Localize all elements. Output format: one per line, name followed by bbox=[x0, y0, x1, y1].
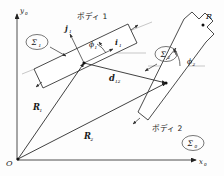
sigma2-subscript: 2 bbox=[167, 55, 171, 60]
unit-vector-j1-subscript: 1 bbox=[69, 29, 72, 34]
sigma1-circle bbox=[26, 35, 48, 50]
sigma0-subscript: 0 bbox=[195, 144, 198, 149]
vector-R2-subscript: 2 bbox=[90, 137, 94, 142]
body1-label: ボディ 1 bbox=[77, 11, 107, 21]
point-R-marker bbox=[202, 24, 205, 27]
axis-label-y: y 0 bbox=[19, 7, 28, 16]
frame-label-sigma1: Σ 1 bbox=[26, 35, 48, 50]
vector-R1-subscript: 1 bbox=[40, 108, 43, 113]
angle-phi1-subscript: 1 bbox=[95, 45, 98, 50]
label-d12: d 12 bbox=[109, 73, 121, 84]
unit-vector-i1-glyph: i bbox=[115, 38, 118, 47]
label-R2: R 2 bbox=[83, 131, 94, 142]
sigma2-leader bbox=[145, 64, 157, 71]
body2-corner-leader bbox=[133, 118, 140, 124]
sigma1-leader bbox=[50, 47, 66, 56]
x-axis-label: x bbox=[199, 158, 203, 166]
x-axis-subscript: 0 bbox=[204, 162, 207, 167]
axis-label-x: x 0 bbox=[199, 158, 207, 167]
origin-sigma2-marker bbox=[164, 81, 167, 84]
y-axis-subscript: 0 bbox=[25, 11, 28, 16]
sigma0-circle bbox=[182, 136, 204, 151]
point-R-label: R bbox=[205, 12, 212, 21]
sigma1-glyph: Σ bbox=[31, 38, 38, 47]
angle-phi2-subscript: 2 bbox=[192, 62, 196, 67]
unit-vector-j1-glyph: j bbox=[63, 24, 68, 33]
origin-O-marker bbox=[17, 158, 20, 161]
label-j1: j 1 bbox=[63, 24, 72, 34]
origin-sigma1-marker bbox=[82, 61, 85, 64]
body1-shape bbox=[34, 24, 137, 88]
vector-R2-arrow bbox=[18, 83, 166, 159]
kinematics-diagram: Σ 1 Σ 2 Σ 0 y 0 x 0 O ボディ 1 ボディ 2 R 1 bbox=[0, 0, 224, 176]
vector-R2 bbox=[18, 83, 166, 159]
vector-d12-subscript: 12 bbox=[115, 79, 121, 84]
diagram-canvas: Σ 1 Σ 2 Σ 0 y 0 x 0 O ボディ 1 ボディ 2 R 1 bbox=[0, 0, 224, 176]
unit-vector-i1-subscript: 1 bbox=[119, 43, 122, 48]
sigma2-glyph: Σ bbox=[160, 50, 167, 59]
sigma0-glyph: Σ bbox=[187, 139, 194, 148]
body1-outline bbox=[34, 24, 137, 88]
origin-label: O bbox=[6, 159, 13, 168]
body2-label: ボディ 2 bbox=[152, 123, 182, 133]
label-R1: R 1 bbox=[32, 102, 42, 113]
frame-label-sigma0: Σ 0 bbox=[182, 136, 204, 151]
sigma1-subscript: 1 bbox=[39, 43, 42, 48]
